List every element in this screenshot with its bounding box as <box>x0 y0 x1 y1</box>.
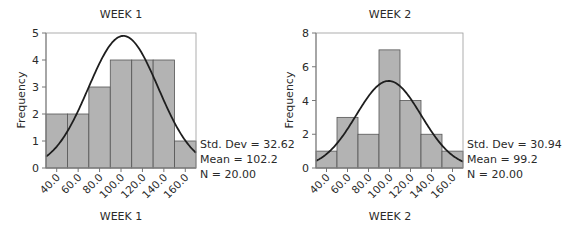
y-tick-label: 2 <box>32 108 39 121</box>
bars <box>316 50 463 168</box>
y-tick-label: 6 <box>302 61 309 74</box>
y-axis-ticks: 012345 <box>32 27 46 175</box>
y-tick-label: 4 <box>32 54 39 67</box>
n-label: N = 20.00 <box>200 168 256 181</box>
std-dev-label: Std. Dev = 30.94 <box>467 138 562 151</box>
x-tick-label: 40.0 <box>37 171 62 196</box>
y-tick-label: 4 <box>302 95 309 108</box>
histogram-bar <box>46 114 67 168</box>
histogram-bar <box>337 117 358 168</box>
histogram-bar <box>89 87 110 168</box>
y-tick-label: 0 <box>32 162 39 175</box>
histogram-week-2: WEEK 2 Frequency 02468 40.060.080.0100.0… <box>283 8 562 223</box>
x-axis-ticks: 40.060.080.0100.0120.0140.0160.0 <box>307 168 458 201</box>
mean-label: Mean = 99.2 <box>467 153 538 166</box>
y-tick-label: 0 <box>302 162 309 175</box>
histogram-week-1: WEEK 1 Frequency 012345 40.060.080.0100.… <box>15 8 295 223</box>
bars <box>46 60 196 168</box>
figure: WEEK 1 Frequency 012345 40.060.080.0100.… <box>0 0 563 228</box>
stats-block: Std. Dev = 30.94 Mean = 99.2 N = 20.00 <box>467 138 562 181</box>
x-axis-label: WEEK 1 <box>100 210 143 223</box>
mean-label: Mean = 102.2 <box>200 153 278 166</box>
histogram-bar <box>132 60 153 168</box>
chart-title: WEEK 2 <box>369 8 412 21</box>
y-tick-label: 8 <box>302 27 309 40</box>
y-axis-label: Frequency <box>283 71 296 128</box>
histogram-bar <box>153 60 174 168</box>
x-tick-label: 60.0 <box>59 171 84 196</box>
x-tick-label: 40.0 <box>307 171 332 196</box>
y-tick-label: 3 <box>32 81 39 94</box>
x-axis-ticks: 40.060.080.0100.0120.0140.0160.0 <box>37 168 191 201</box>
chart-title: WEEK 1 <box>100 8 143 21</box>
y-axis-label: Frequency <box>15 71 28 128</box>
histogram-figure: WEEK 1 Frequency 012345 40.060.080.0100.… <box>0 0 563 228</box>
y-tick-label: 1 <box>32 135 39 148</box>
y-tick-label: 2 <box>302 128 309 141</box>
x-axis-label: WEEK 2 <box>369 210 412 223</box>
histogram-bar <box>379 50 400 168</box>
std-dev-label: Std. Dev = 32.62 <box>200 138 295 151</box>
histogram-bar <box>67 114 88 168</box>
y-tick-label: 5 <box>32 27 39 40</box>
histogram-bar <box>175 141 196 168</box>
histogram-bar <box>358 134 379 168</box>
x-tick-label: 160.0 <box>161 171 191 201</box>
y-axis-ticks: 02468 <box>302 27 316 175</box>
histogram-bar <box>421 134 442 168</box>
stats-block: Std. Dev = 32.62 Mean = 102.2 N = 20.00 <box>200 138 295 181</box>
n-label: N = 20.00 <box>467 168 523 181</box>
histogram-bar <box>110 60 131 168</box>
x-tick-label: 60.0 <box>328 171 353 196</box>
